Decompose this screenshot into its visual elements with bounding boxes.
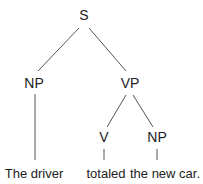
word-object: the new car. (130, 166, 200, 181)
edge-vp-v (107, 95, 126, 127)
tree-edges (0, 0, 203, 184)
edge-s-vp (89, 28, 126, 71)
node-v: V (99, 129, 108, 145)
edge-vp-np (133, 95, 153, 127)
node-s: S (79, 7, 88, 23)
edge-s-np (38, 28, 79, 71)
word-subject: The driver (5, 166, 64, 181)
node-np-object: NP (147, 129, 166, 145)
node-vp: VP (121, 75, 140, 91)
word-verb: totaled (86, 166, 125, 181)
node-np-subject: NP (24, 75, 43, 91)
